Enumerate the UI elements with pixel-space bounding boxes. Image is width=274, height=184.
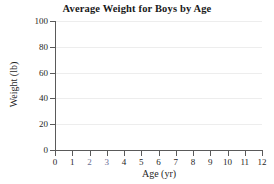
x-tick-4 [124, 151, 125, 156]
chart-figure: Average Weight for Boys by Age 100 80 60… [0, 0, 274, 184]
x-tick-7 [176, 151, 177, 156]
y-axis-title: Weight (lb) [8, 35, 19, 135]
x-tick-9 [210, 151, 211, 156]
x-tick-10 [228, 151, 229, 156]
gridline-60 [55, 73, 262, 74]
y-tick-label-0: 0 [20, 146, 48, 155]
y-tick-labels: 100 80 60 40 20 0 [16, 0, 48, 184]
x-tick-12 [262, 151, 263, 156]
x-tick-label-12: 12 [251, 158, 273, 167]
y-tick-20 [50, 124, 55, 125]
x-tick-11 [245, 151, 246, 156]
y-tick-80 [50, 47, 55, 48]
y-tick-label-20: 20 [20, 120, 48, 129]
plot-area [55, 21, 262, 150]
y-tick-60 [50, 73, 55, 74]
gridline-80 [55, 47, 262, 48]
x-axis-title: Age (yr) [55, 168, 263, 179]
x-tick-0 [55, 151, 56, 156]
gridline-100 [55, 21, 262, 22]
y-tick-label-60: 60 [20, 69, 48, 78]
y-tick-100 [50, 21, 55, 22]
gridline-20 [55, 124, 262, 125]
x-tick-5 [141, 151, 142, 156]
x-tick-1 [72, 151, 73, 156]
x-tick-6 [159, 151, 160, 156]
x-tick-3 [107, 151, 108, 156]
y-tick-label-40: 40 [20, 94, 48, 103]
x-tick-2 [90, 151, 91, 156]
y-tick-label-100: 100 [20, 17, 48, 26]
gridline-40 [55, 98, 262, 99]
y-tick-40 [50, 98, 55, 99]
y-axis-line [55, 21, 56, 151]
x-tick-8 [193, 151, 194, 156]
y-tick-label-80: 80 [20, 43, 48, 52]
